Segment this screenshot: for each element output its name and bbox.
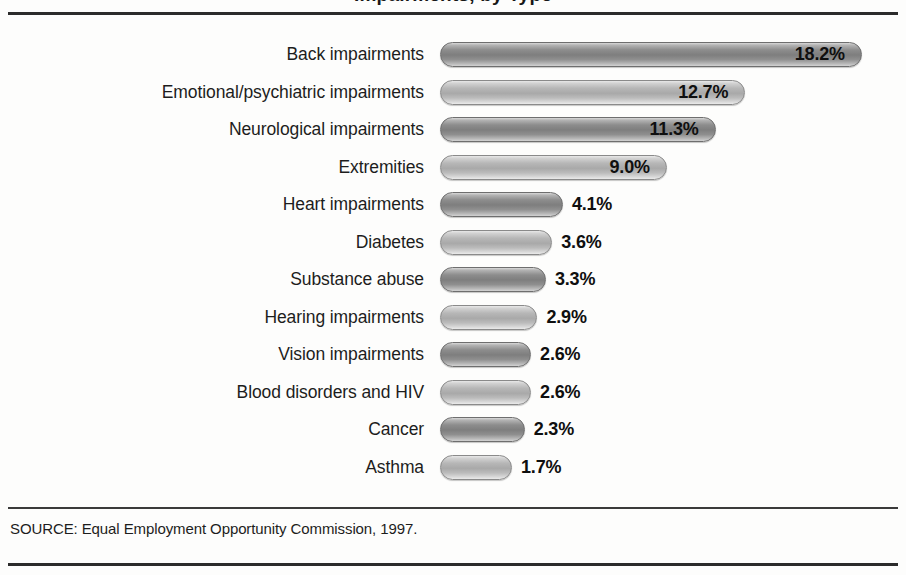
bar-value-label: 2.6% [540, 382, 580, 403]
bar [440, 342, 531, 367]
bar-track: 2.6% [440, 374, 906, 412]
source-note: SOURCE: Equal Employment Opportunity Com… [10, 520, 417, 537]
bar-value-label: 11.3% [650, 119, 715, 140]
bar-track: 18.2% [440, 36, 906, 74]
chart-row: Substance abuse3.3% [0, 261, 906, 299]
bar: 18.2% [440, 42, 862, 67]
bar-track: 3.6% [440, 224, 906, 262]
bar-value-label: 4.1% [572, 194, 612, 215]
chart-row: Vision impairments2.6% [0, 336, 906, 374]
bar-value-label: 2.6% [540, 344, 580, 365]
category-label: Heart impairments [0, 194, 440, 215]
bar-track: 11.3% [440, 111, 906, 149]
bar-value-label: 2.9% [546, 307, 586, 328]
bar: 11.3% [440, 117, 716, 142]
category-label: Blood disorders and HIV [0, 382, 440, 403]
chart-row: Back impairments18.2% [0, 36, 906, 74]
bar-track: 12.7% [440, 74, 906, 112]
chart-title-partial: Impairments, by Type [0, 0, 906, 6]
bar-track: 3.3% [440, 261, 906, 299]
chart-row: Cancer2.3% [0, 411, 906, 449]
category-label: Neurological impairments [0, 119, 440, 140]
category-label: Back impairments [0, 44, 440, 65]
bar-value-label: 3.3% [555, 269, 595, 290]
top-rule [8, 12, 898, 15]
category-label: Asthma [0, 457, 440, 478]
bottom-rule [8, 563, 898, 566]
bar-track: 2.9% [440, 299, 906, 337]
category-label: Emotional/psychiatric impairments [0, 82, 440, 103]
bar-value-label: 12.7% [678, 82, 744, 103]
chart-row: Neurological impairments11.3% [0, 111, 906, 149]
chart-row: Blood disorders and HIV2.6% [0, 374, 906, 412]
category-label: Hearing impairments [0, 307, 440, 328]
bar-track: 1.7% [440, 449, 906, 487]
bar-track: 2.6% [440, 336, 906, 374]
bar: 12.7% [440, 80, 745, 105]
chart-row: Extremities9.0% [0, 149, 906, 187]
bar-track: 4.1% [440, 186, 906, 224]
bar-track: 9.0% [440, 149, 906, 187]
bar [440, 305, 537, 330]
bar-value-label: 1.7% [521, 457, 561, 478]
bar-value-label: 3.6% [561, 232, 601, 253]
chart-row: Asthma1.7% [0, 449, 906, 487]
bar [440, 417, 525, 442]
bar-value-label: 9.0% [610, 157, 666, 178]
bar-track: 2.3% [440, 411, 906, 449]
category-label: Substance abuse [0, 269, 440, 290]
chart-row: Emotional/psychiatric impairments12.7% [0, 74, 906, 112]
chart-row: Diabetes3.6% [0, 224, 906, 262]
chart-row: Hearing impairments2.9% [0, 299, 906, 337]
source-separator-rule [8, 507, 898, 509]
category-label: Extremities [0, 157, 440, 178]
bar [440, 230, 552, 255]
chart-figure: Impairments, by Type Back impairments18.… [0, 0, 906, 575]
bar-value-label: 18.2% [795, 44, 861, 65]
chart-row: Heart impairments4.1% [0, 186, 906, 224]
bar [440, 380, 531, 405]
bar-value-label: 2.3% [534, 419, 574, 440]
category-label: Vision impairments [0, 344, 440, 365]
category-label: Cancer [0, 419, 440, 440]
bar: 9.0% [440, 155, 667, 180]
bar [440, 267, 546, 292]
category-label: Diabetes [0, 232, 440, 253]
bar-chart-plot: Back impairments18.2%Emotional/psychiatr… [0, 36, 906, 486]
bar [440, 455, 512, 480]
bar [440, 192, 563, 217]
